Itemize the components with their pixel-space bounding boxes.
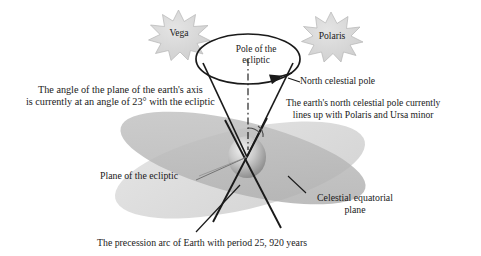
label-north-celestial-pole: North celestial pole xyxy=(300,75,375,87)
precession-diagram-graphic xyxy=(0,0,481,256)
label-pole-of-the-ecliptic: Pole of the ecliptic xyxy=(222,44,290,67)
leader-north-pole xyxy=(288,78,300,82)
star-label-vega: Vega xyxy=(158,27,200,38)
label-earth-axis-angle: The angle of the plane of the earth's ax… xyxy=(26,84,215,109)
star-label-polaris: Polaris xyxy=(308,30,356,41)
label-precession-arc-period: The precession arc of Earth with period … xyxy=(97,237,307,249)
label-celestial-equatorial-plane: Celestial equatorial plane xyxy=(312,192,398,216)
diagram-canvas: Vega Polaris The angle of the plane of t… xyxy=(0,0,481,256)
label-plane-of-the-ecliptic: Plane of the ecliptic xyxy=(100,170,178,182)
label-polaris-ursa-minor-note: The earth's north celestial pole current… xyxy=(286,97,440,120)
